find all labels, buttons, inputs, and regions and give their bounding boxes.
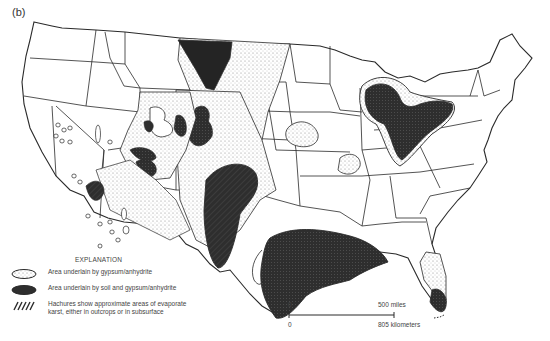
scale-line	[288, 312, 398, 318]
map-figure: (b)	[0, 0, 550, 341]
open-area-icon	[10, 268, 38, 280]
legend-label-gypsum: Area underlain by gypsum/anhydrite	[48, 268, 152, 276]
dark-area-icon	[10, 284, 38, 296]
legend-label-hachures-line2: karst, either in outcrops or in subsurfa…	[48, 308, 164, 315]
scale-bar: 0 500 miles 0 805 kilometers	[288, 301, 438, 341]
scale-miles-label: 500 miles	[378, 301, 406, 308]
legend-label-hachures: Hachures show approximate areas of evapo…	[48, 300, 186, 316]
legend-item-hachures: Hachures show approximate areas of evapo…	[10, 300, 186, 316]
outline-region-ky-tn	[338, 154, 360, 174]
legend-item-soil-gypsum: Area underlain by soil and gypsum/anhydr…	[10, 284, 176, 296]
legend-title: EXPLANATION	[75, 256, 122, 263]
scale-km-label: 805 kilometers	[378, 321, 420, 328]
legend-label-hachures-line1: Hachures show approximate areas of evapo…	[48, 300, 186, 307]
dark-region-se-arizona	[86, 181, 104, 200]
legend-item-gypsum: Area underlain by gypsum/anhydrite	[10, 268, 152, 280]
legend-label-soil-gypsum: Area underlain by soil and gypsum/anhydr…	[48, 284, 176, 292]
hachure-icon	[10, 300, 38, 312]
scale-zero-top: 0	[288, 301, 292, 308]
outline-region-missouri	[286, 122, 318, 147]
scale-zero-bottom: 0	[288, 321, 292, 328]
